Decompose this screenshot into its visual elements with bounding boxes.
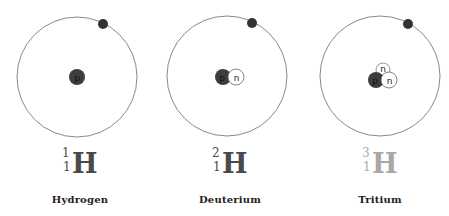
tritium-atom: n p n [320,16,440,136]
nuclide-symbol: 1 1 H [60,146,100,180]
tritium-notation: 3 1 H Tritium [305,146,449,205]
hydrogen-atom: p [17,17,137,137]
isotope-name: Deuterium [155,194,305,205]
atomic-number: 1 [363,160,371,174]
electron-icon [247,18,257,28]
neutron-label: n [380,64,386,74]
deuterium-notation: 2 1 H Deuterium [155,146,305,205]
proton-label: p [372,76,378,86]
deuterium-atom: p n [167,16,287,136]
isotope-name: Hydrogen [5,194,155,205]
isotope-name: Tritium [305,194,449,205]
atomic-number: 1 [63,160,71,174]
mass-number: 1 [62,146,70,160]
mass-number: 3 [362,146,370,160]
element-symbol: H [222,148,248,179]
proton-label: p [74,73,80,83]
proton-label: p [219,73,225,83]
mass-number: 2 [212,146,220,160]
atomic-number: 1 [213,160,221,174]
hydrogen-notation: 1 1 H Hydrogen [5,146,155,205]
element-symbol: H [372,148,398,179]
nuclide-symbol: 2 1 H [210,146,250,180]
neutron-label: n [387,76,393,86]
electron-icon [403,19,413,29]
element-symbol: H [72,148,98,179]
neutron-label: n [234,73,240,83]
electron-icon [98,19,108,29]
nuclide-symbol: 3 1 H [360,146,400,180]
